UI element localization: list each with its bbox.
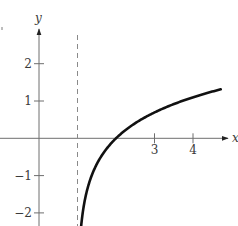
y-axis-label: y xyxy=(34,11,42,25)
y-tick-label: −2 xyxy=(14,206,32,220)
scan-artifact xyxy=(1,27,3,30)
x-axis-label: x xyxy=(232,131,238,145)
x-tick-label: 4 xyxy=(189,143,197,157)
y-tick-label: 2 xyxy=(24,57,32,71)
y-tick-label: 1 xyxy=(24,94,32,108)
x-tick-label: 3 xyxy=(151,143,159,157)
y-tick-label: −1 xyxy=(14,169,32,183)
log-curve xyxy=(81,89,221,226)
function-graph: x y 34−2−112 xyxy=(0,0,238,226)
